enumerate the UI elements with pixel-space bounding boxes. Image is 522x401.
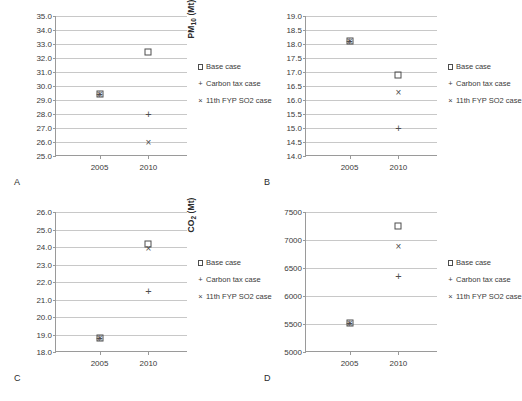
y-axis-tick: [53, 58, 56, 59]
x-tick-label: 2005: [341, 163, 359, 172]
data-point-cross: [144, 243, 153, 252]
y-axis-tick: [303, 100, 306, 101]
legend-item: +Carbon tax case: [446, 271, 502, 288]
x-tick-label: 2005: [341, 359, 359, 368]
legend-item: Base case: [446, 254, 502, 271]
gridline: [306, 16, 437, 17]
legend-marker-cross-icon: ×: [446, 292, 455, 301]
y-axis-tick: [53, 282, 56, 283]
gridline: [306, 296, 437, 297]
legend-item: ×11th FYP SO2 case: [196, 288, 252, 305]
y-tick-label: 21.0: [14, 295, 52, 304]
legend: Base case+Carbon tax case×11th FYP SO2 c…: [196, 58, 252, 109]
y-tick-label: 15.5: [264, 110, 302, 119]
y-axis-tick: [53, 247, 56, 248]
gridline: [306, 240, 437, 241]
x-axis-tick: [100, 155, 101, 159]
gridline: [56, 317, 187, 318]
y-axis-tick: [303, 240, 306, 241]
gridline: [56, 282, 187, 283]
y-axis-tick: [303, 142, 306, 143]
y-tick-label: 18.5: [264, 26, 302, 35]
gridline: [56, 212, 187, 213]
legend: Base case+Carbon tax case×11th FYP SO2 c…: [446, 254, 502, 305]
gridline: [306, 212, 437, 213]
y-tick-label: 25.0: [14, 225, 52, 234]
data-point-square: [145, 49, 152, 56]
gridline: [306, 44, 437, 45]
panel-c: NOx (Mt)18.019.020.021.022.023.024.025.0…: [0, 196, 249, 396]
y-axis-tick: [53, 142, 56, 143]
gridline: [56, 100, 187, 101]
legend-marker-cross-icon: ×: [196, 96, 205, 105]
x-tick-label: 2010: [389, 163, 407, 172]
data-point-cross: [144, 138, 153, 147]
y-axis-tick: [53, 230, 56, 231]
y-tick-label: 18.0: [264, 40, 302, 49]
y-axis-tick: [303, 156, 306, 157]
y-axis-tick: [53, 335, 56, 336]
gridline: [306, 324, 437, 325]
y-tick-label: 26.0: [14, 138, 52, 147]
y-tick-label: 7000: [264, 236, 302, 245]
y-axis-tick: [53, 100, 56, 101]
gridline: [306, 58, 437, 59]
y-tick-label: 14.0: [264, 152, 302, 161]
gridline: [306, 72, 437, 73]
legend-marker-square-icon: [446, 62, 455, 71]
data-point-plus: [144, 286, 153, 295]
plot-area: 20052010: [305, 212, 437, 352]
gridline: [56, 72, 187, 73]
legend-label: 11th FYP SO2 case: [456, 96, 522, 105]
y-axis-tick-labels: 25.026.027.028.029.030.031.032.033.034.0…: [14, 16, 52, 156]
y-axis-tick: [303, 86, 306, 87]
y-axis-tick: [53, 44, 56, 45]
x-tick-label: 2005: [91, 163, 109, 172]
y-axis-tick-labels: 18.019.020.021.022.023.024.025.026.0: [14, 212, 52, 352]
gridline: [56, 335, 187, 336]
plot-area: 20052010: [305, 16, 437, 156]
y-axis-tick: [53, 114, 56, 115]
y-tick-label: 17.0: [264, 68, 302, 77]
y-axis-tick: [53, 86, 56, 87]
legend-item: ×11th FYP SO2 case: [196, 92, 252, 109]
y-tick-label: 26.0: [14, 208, 52, 217]
x-axis-tick: [398, 351, 399, 355]
data-point-cross: [394, 87, 403, 96]
y-tick-label: 5000: [264, 348, 302, 357]
x-tick-label: 2010: [389, 359, 407, 368]
y-axis-tick: [303, 352, 306, 353]
y-tick-label: 14.5: [264, 138, 302, 147]
y-axis-tick: [303, 324, 306, 325]
legend-item: +Carbon tax case: [446, 75, 502, 92]
x-tick-label: 2010: [139, 163, 157, 172]
plot-area: 20052010: [55, 16, 187, 156]
legend-label: Carbon tax case: [456, 275, 511, 284]
panel-a: SO2 (Mt)25.026.027.028.029.030.031.032.0…: [0, 0, 249, 200]
data-point-square: [395, 71, 402, 78]
data-point-cross: [345, 318, 354, 327]
gridline: [56, 300, 187, 301]
data-point-cross: [95, 90, 104, 99]
gridline: [306, 268, 437, 269]
y-axis-tick-labels: 500055006000650070007500: [264, 212, 302, 352]
y-axis-tick: [53, 300, 56, 301]
panel-d: CO2 (Mt)50005500600065007000750020052010…: [250, 196, 499, 396]
y-tick-label: 35.0: [14, 12, 52, 21]
legend-label: Base case: [206, 258, 241, 267]
y-axis-title: CO2 (Mt): [186, 140, 200, 290]
data-point-cross: [345, 37, 354, 46]
panel-letter: D: [264, 373, 271, 383]
y-axis-tick: [303, 212, 306, 213]
gridline: [56, 128, 187, 129]
y-tick-label: 30.0: [14, 82, 52, 91]
legend-item: Base case: [196, 254, 252, 271]
gridline: [56, 114, 187, 115]
y-axis-tick: [303, 268, 306, 269]
y-axis-tick: [53, 30, 56, 31]
y-axis-tick: [303, 30, 306, 31]
gridline: [306, 114, 437, 115]
legend-marker-plus-icon: +: [446, 275, 455, 284]
legend-marker-cross-icon: ×: [446, 96, 455, 105]
